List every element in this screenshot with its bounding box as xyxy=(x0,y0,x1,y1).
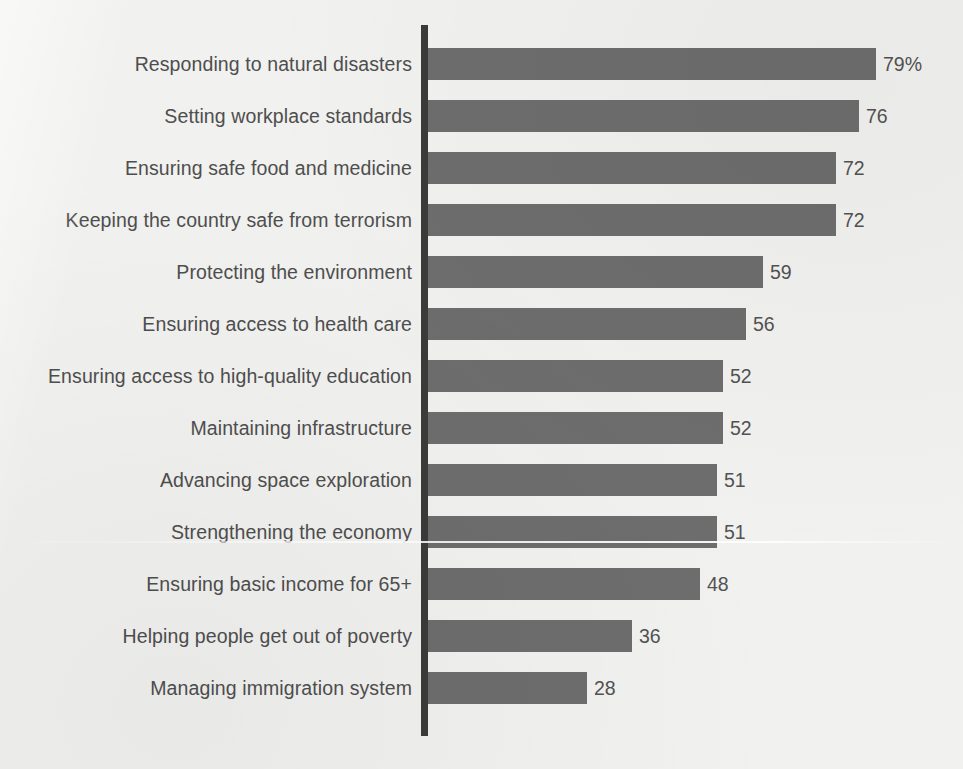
bar-group: 48 xyxy=(428,568,729,600)
bar-group: 59 xyxy=(428,256,792,288)
bar-value-label: 56 xyxy=(753,313,775,336)
chart-bar-row: Ensuring access to health care56 xyxy=(0,298,963,350)
bar-value-label: 51 xyxy=(724,521,746,544)
bar xyxy=(428,308,746,340)
bar-category-label: Advancing space exploration xyxy=(0,469,412,492)
bar xyxy=(428,100,859,132)
bar-category-label: Helping people get out of poverty xyxy=(0,625,412,648)
bar-value-label: 51 xyxy=(724,469,746,492)
bar-category-label: Keeping the country safe from terrorism xyxy=(0,209,412,232)
bar xyxy=(428,672,587,704)
bar xyxy=(428,152,836,184)
bar-category-label: Ensuring access to high-quality educatio… xyxy=(0,365,412,388)
bar xyxy=(428,516,717,548)
bar xyxy=(428,568,700,600)
chart-bar-row: Maintaining infrastructure52 xyxy=(0,402,963,454)
bar-category-label: Ensuring safe food and medicine xyxy=(0,157,412,180)
bar xyxy=(428,412,723,444)
bar-category-label: Maintaining infrastructure xyxy=(0,417,412,440)
bar-group: 76 xyxy=(428,100,888,132)
bar-group: 56 xyxy=(428,308,775,340)
chart-bar-row: Ensuring basic income for 65+48 xyxy=(0,558,963,610)
chart-bar-row: Keeping the country safe from terrorism7… xyxy=(0,194,963,246)
bar xyxy=(428,48,876,80)
bar-group: 72 xyxy=(428,204,865,236)
bar-value-label: 36 xyxy=(639,625,661,648)
bar-value-label: 48 xyxy=(707,573,729,596)
chart-bar-row: Responding to natural disasters79% xyxy=(0,38,963,90)
bar-category-label: Ensuring access to health care xyxy=(0,313,412,336)
bar xyxy=(428,620,632,652)
bar-group: 36 xyxy=(428,620,661,652)
bar-value-label: 52 xyxy=(730,365,752,388)
bar xyxy=(428,464,717,496)
bar-value-label: 76 xyxy=(866,105,888,128)
bar-value-label: 72 xyxy=(843,209,865,232)
bar-category-label: Managing immigration system xyxy=(0,677,412,700)
bar-category-label: Protecting the environment xyxy=(0,261,412,284)
bar-group: 51 xyxy=(428,516,746,548)
chart-bar-row: Advancing space exploration51 xyxy=(0,454,963,506)
chart-bar-row: Helping people get out of poverty36 xyxy=(0,610,963,662)
chart-bar-row: Protecting the environment59 xyxy=(0,246,963,298)
chart-bar-row: Setting workplace standards76 xyxy=(0,90,963,142)
bar-group: 51 xyxy=(428,464,746,496)
bar-value-label: 52 xyxy=(730,417,752,440)
bar-category-label: Strengthening the economy xyxy=(0,521,412,544)
bar-category-label: Setting workplace standards xyxy=(0,105,412,128)
bar-value-label: 59 xyxy=(770,261,792,284)
bar xyxy=(428,204,836,236)
chart-baseline-axis xyxy=(421,25,428,736)
bar-group: 28 xyxy=(428,672,616,704)
bar xyxy=(428,360,723,392)
bar-value-label: 72 xyxy=(843,157,865,180)
bar-group: 79% xyxy=(428,48,922,80)
bar-group: 52 xyxy=(428,360,752,392)
bar-value-label: 28 xyxy=(594,677,616,700)
bar-group: 52 xyxy=(428,412,752,444)
chart-bar-row: Ensuring access to high-quality educatio… xyxy=(0,350,963,402)
chart-bar-row: Ensuring safe food and medicine72 xyxy=(0,142,963,194)
bar xyxy=(428,256,763,288)
bar-category-label: Ensuring basic income for 65+ xyxy=(0,573,412,596)
chart-bar-row: Managing immigration system28 xyxy=(0,662,963,714)
chart-bar-row: Strengthening the economy51 xyxy=(0,506,963,558)
bar-value-label: 79% xyxy=(883,53,922,76)
bar-category-label: Responding to natural disasters xyxy=(0,53,412,76)
bar-group: 72 xyxy=(428,152,865,184)
horizontal-bar-chart: Responding to natural disasters79%Settin… xyxy=(0,0,963,769)
